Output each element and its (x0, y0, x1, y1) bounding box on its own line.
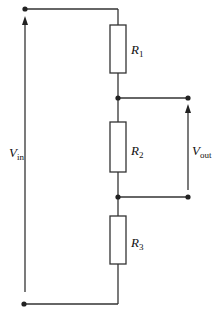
terminal-dot-output-bottom (185, 194, 190, 199)
resistor-r1 (110, 25, 126, 73)
junction-dot-r1-r2 (115, 95, 120, 100)
label-r3-symbol: R (131, 235, 139, 250)
label-vin: Vin (9, 146, 24, 162)
circuit-diagram (0, 0, 217, 321)
label-r3: R3 (131, 236, 143, 252)
label-vin-symbol: V (9, 145, 17, 160)
terminal-dot-top-left (22, 6, 27, 11)
label-r1-symbol: R (131, 42, 139, 57)
label-r3-subscript: 3 (139, 242, 144, 252)
label-r1-subscript: 1 (139, 49, 144, 59)
label-r1: R1 (131, 43, 143, 59)
label-r2: R2 (131, 144, 143, 160)
terminal-dot-output-top (185, 95, 190, 100)
label-vout-symbol: V (192, 143, 200, 158)
label-r2-symbol: R (131, 143, 139, 158)
label-r2-subscript: 2 (139, 150, 144, 160)
label-vin-subscript: in (17, 152, 24, 162)
resistor-r2 (110, 122, 126, 172)
vin-arrowhead-icon (22, 16, 28, 25)
label-vout-subscript: out (200, 150, 212, 160)
terminal-dot-bottom-left (21, 301, 26, 306)
junction-dot-r2-r3 (115, 194, 120, 199)
resistor-r3 (110, 216, 126, 264)
label-vout: Vout (192, 144, 211, 160)
vout-arrowhead-icon (185, 104, 191, 113)
